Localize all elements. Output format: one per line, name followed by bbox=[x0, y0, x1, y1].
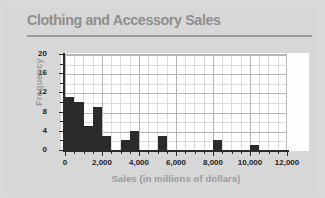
x-tick-major bbox=[213, 152, 214, 156]
x-tick-major bbox=[176, 152, 177, 156]
x-tick-minor bbox=[93, 152, 94, 154]
y-tick-minor bbox=[60, 64, 64, 65]
x-tick-minor bbox=[232, 152, 233, 154]
y-tick-label: 0 bbox=[25, 146, 47, 154]
x-tick-major bbox=[250, 152, 251, 156]
x-tick-minor bbox=[130, 152, 131, 154]
y-tick-major bbox=[59, 54, 64, 55]
y-tick-label: 4 bbox=[25, 127, 47, 135]
x-tick-major bbox=[139, 152, 140, 156]
x-tick-minor bbox=[121, 152, 122, 154]
x-tick-minor bbox=[204, 152, 205, 154]
x-tick-major bbox=[65, 152, 66, 156]
x-tick-minor bbox=[278, 152, 279, 154]
chart-card: Clothing and Accessory Sales 048121620 0… bbox=[6, 5, 319, 193]
x-tick-minor bbox=[74, 152, 75, 154]
y-tick-minor bbox=[60, 121, 64, 122]
chart-title: Clothing and Accessory Sales bbox=[27, 12, 285, 28]
y-tick-major bbox=[59, 131, 64, 132]
y-tick-minor bbox=[60, 102, 64, 103]
y-tick-major bbox=[59, 112, 64, 113]
x-tick-minor bbox=[269, 152, 270, 154]
y-tick-major bbox=[59, 92, 64, 93]
x-tick-minor bbox=[148, 152, 149, 154]
x-tick-minor bbox=[259, 152, 260, 154]
x-tick-major bbox=[287, 152, 288, 156]
x-tick-major bbox=[102, 152, 103, 156]
y-tick-minor bbox=[60, 140, 64, 141]
histogram-bar bbox=[65, 97, 74, 150]
x-tick-minor bbox=[195, 152, 196, 154]
x-tick-minor bbox=[84, 152, 85, 154]
y-axis-title: Frequency bbox=[34, 47, 44, 117]
histogram-bar bbox=[93, 107, 102, 150]
histogram-bar bbox=[84, 126, 93, 150]
histogram-bar bbox=[102, 136, 111, 150]
x-tick-label: 12,000 bbox=[265, 158, 309, 167]
x-tick-minor bbox=[167, 152, 168, 154]
histogram-bar bbox=[158, 136, 167, 150]
y-tick-minor bbox=[60, 83, 64, 84]
chart-screenshot: Clothing and Accessory Sales 048121620 0… bbox=[0, 0, 325, 198]
x-axis-title: Sales (in millions of dollars) bbox=[63, 173, 289, 184]
x-tick-minor bbox=[222, 152, 223, 154]
x-tick-minor bbox=[185, 152, 186, 154]
x-tick-minor bbox=[158, 152, 159, 154]
histogram-bar bbox=[213, 140, 222, 150]
y-tick-major bbox=[59, 73, 64, 74]
y-tick-major bbox=[59, 150, 64, 151]
histogram-bar bbox=[130, 131, 139, 150]
plot-area bbox=[65, 54, 287, 150]
histogram-bar bbox=[74, 102, 83, 150]
x-tick-minor bbox=[241, 152, 242, 154]
histogram-bar bbox=[121, 140, 130, 150]
x-tick-minor bbox=[111, 152, 112, 154]
title-divider bbox=[27, 35, 312, 37]
